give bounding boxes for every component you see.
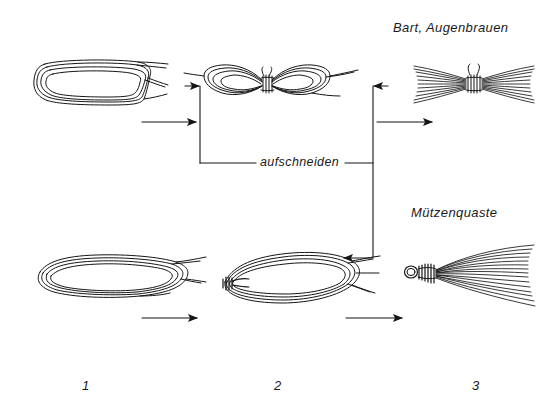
row2-step1-hank	[38, 255, 206, 298]
row1-step2-bow	[184, 65, 358, 96]
cut-instruction-label: aufschneiden	[260, 155, 339, 169]
row2-step3-tassel	[405, 245, 536, 306]
row2-step2-tied-hank	[223, 252, 380, 303]
result-label-cap-tassel: Mützenquaste	[411, 205, 497, 220]
diagram-canvas: Bart, Augenbrauen Mützenquaste aufschnei…	[0, 0, 560, 409]
result-label-beard-eyebrows: Bart, Augenbrauen	[393, 20, 508, 35]
column-number-2: 2	[274, 378, 282, 393]
row1-step1-hank	[34, 60, 168, 105]
process-arrows	[142, 122, 432, 318]
row1-step3-brush	[414, 64, 534, 103]
column-number-3: 3	[472, 378, 480, 393]
column-number-1: 1	[82, 378, 90, 393]
cut-bracket	[185, 86, 388, 258]
